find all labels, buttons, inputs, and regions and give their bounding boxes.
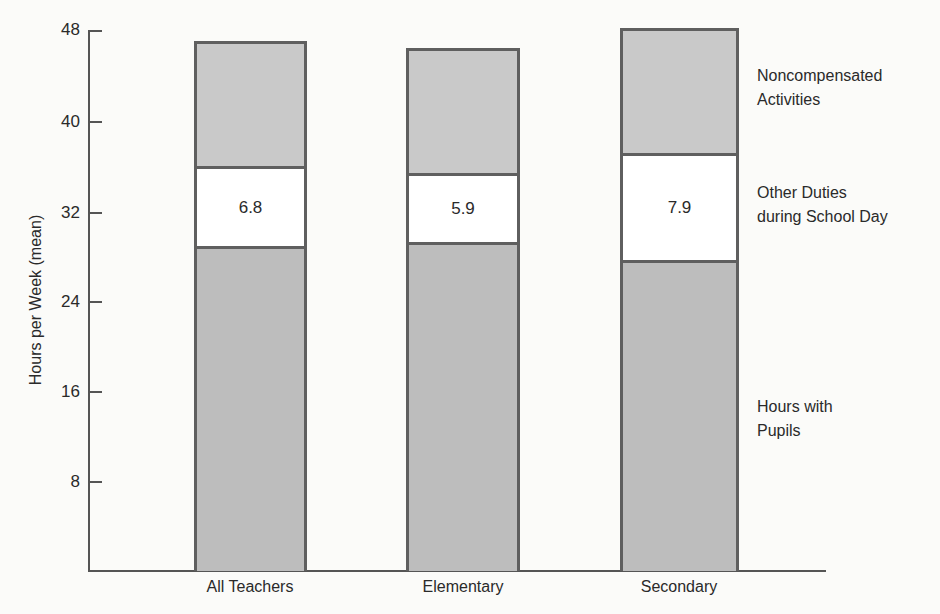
segment-hours-with-pupils xyxy=(406,242,520,571)
y-tick-label: 16 xyxy=(40,382,80,402)
legend-text: during School Day xyxy=(757,205,888,229)
legend-text: Other Duties xyxy=(757,181,888,205)
legend-text: Activities xyxy=(757,88,882,112)
legend-text: Hours with xyxy=(757,395,833,419)
segment-other-duties: 6.8 xyxy=(194,166,307,249)
y-tick xyxy=(90,121,102,123)
bar-elementary: 5.9 xyxy=(406,48,520,571)
y-tick-label: 32 xyxy=(40,203,80,223)
legend-other-duties: Other Duties during School Day xyxy=(757,181,888,229)
y-tick xyxy=(90,301,102,303)
bar-all-teachers: 6.8 xyxy=(194,41,307,571)
legend-text: Pupils xyxy=(757,419,833,443)
data-label: 6.8 xyxy=(239,198,263,218)
y-tick xyxy=(90,212,102,214)
y-tick-label: 24 xyxy=(40,292,80,312)
segment-noncompensated xyxy=(406,48,520,176)
y-tick-label: 40 xyxy=(40,112,80,132)
y-tick xyxy=(90,481,102,483)
y-tick-label: 48 xyxy=(40,20,80,40)
y-tick-label: 8 xyxy=(40,472,80,492)
segment-noncompensated xyxy=(194,41,307,169)
segment-other-duties: 5.9 xyxy=(406,173,520,245)
segment-hours-with-pupils xyxy=(194,246,307,571)
x-label-all-teachers: All Teachers xyxy=(170,578,330,596)
data-label: 7.9 xyxy=(668,198,692,218)
legend-noncompensated: Noncompensated Activities xyxy=(757,64,882,112)
bar-secondary: 7.9 xyxy=(620,28,739,571)
x-label-secondary: Secondary xyxy=(599,578,759,596)
segment-hours-with-pupils xyxy=(620,260,739,571)
legend-text: Noncompensated xyxy=(757,64,882,88)
legend-hours-with-pupils: Hours with Pupils xyxy=(757,395,833,443)
stacked-bar-chart: Hours per Week (mean) 8 16 24 32 40 48 6… xyxy=(0,0,940,614)
y-tick xyxy=(90,30,102,32)
segment-noncompensated xyxy=(620,28,739,156)
y-tick xyxy=(90,391,102,393)
data-label: 5.9 xyxy=(451,199,475,219)
segment-other-duties: 7.9 xyxy=(620,153,739,263)
x-label-elementary: Elementary xyxy=(383,578,543,596)
